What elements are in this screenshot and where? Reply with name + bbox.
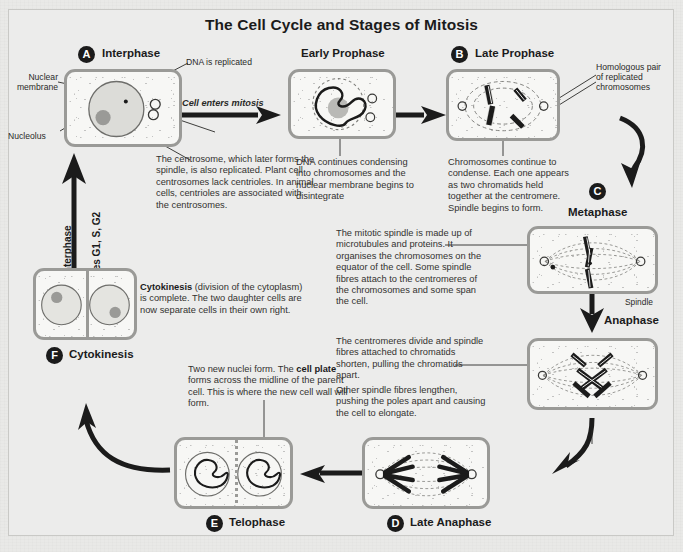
label-nucleolus: Nucleolus xyxy=(8,131,46,141)
label-spindle: Spindle xyxy=(625,297,653,307)
note-anaphase-2: Other spindle fibres lengthen, pushing t… xyxy=(336,385,491,419)
cell-anaphase xyxy=(527,338,658,410)
label-cell-enters-mitosis: Cell enters mitosis xyxy=(182,98,264,108)
stage-label-metaphase: Metaphase xyxy=(568,206,627,218)
cell-late-prophase xyxy=(446,69,560,141)
note-anaphase-1: The centromeres divide and spindle fibre… xyxy=(336,336,486,382)
stage-label-late-anaphase: Late Anaphase xyxy=(410,516,491,528)
label-homologous-pair: Homologous pair of replicated chromosome… xyxy=(596,62,676,92)
diagram-canvas: The Cell Cycle and Stages of Mitosis xyxy=(0,0,683,552)
cell-metaphase xyxy=(527,226,658,294)
cytokinesis-divider xyxy=(86,271,89,337)
stage-badge-c: C xyxy=(589,183,606,200)
stage-label-cytokinesis: Cytokinesis xyxy=(69,348,134,360)
cell-late-anaphase xyxy=(362,437,490,509)
stage-badge-d: D xyxy=(387,515,404,532)
note-early-prophase: DNA continues condensing into chromosome… xyxy=(296,157,424,203)
stage-badge-b: B xyxy=(451,46,468,63)
cell-telophase xyxy=(174,437,293,509)
stage-label-anaphase: Anaphase xyxy=(604,314,659,326)
cell-early-prophase xyxy=(288,69,396,139)
stage-label-late-prophase: Late Prophase xyxy=(475,47,554,59)
note-telophase: Two new nuclei form. The cell plate form… xyxy=(188,364,348,410)
stage-label-telophase: Telophase xyxy=(229,516,285,528)
label-dna-replicated: DNA is replicated xyxy=(186,57,252,67)
label-nuclear-membrane: Nuclear membrane xyxy=(14,72,58,92)
note-late-prophase: Chromosomes continue to condense. Each o… xyxy=(448,157,576,214)
note-centrosome: The centrosome, which later forms the sp… xyxy=(156,154,316,211)
note-cytokinesis: Cytokinesis (division of the cytoplasm) … xyxy=(140,282,305,316)
stage-label-interphase: Interphase xyxy=(102,47,160,59)
cell-interphase xyxy=(64,69,182,147)
stage-badge-f: F xyxy=(46,347,63,364)
cell-plate-divider xyxy=(235,440,238,506)
stage-badge-e: E xyxy=(206,515,223,532)
note-metaphase: The mitotic spindle is made up of microt… xyxy=(336,228,486,308)
stage-badge-a: A xyxy=(78,46,95,63)
cell-cytokinesis xyxy=(33,268,137,340)
page-title: The Cell Cycle and Stages of Mitosis xyxy=(0,16,683,34)
stage-label-early-prophase: Early Prophase xyxy=(301,47,385,59)
